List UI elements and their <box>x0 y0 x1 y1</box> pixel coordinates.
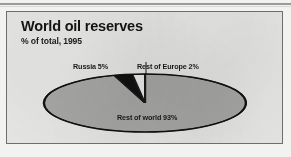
pie-chart-svg <box>7 12 283 144</box>
pie-chart: Russia 5% Rest of Europe 2% Rest of worl… <box>7 12 283 144</box>
scanned-page: World oil reserves % of total, 1995 <box>0 0 291 157</box>
chart-figure-panel: World oil reserves % of total, 1995 <box>6 11 283 144</box>
pie-label-russia: Russia 5% <box>73 62 108 71</box>
pie-label-rest-of-world: Rest of world 93% <box>117 113 177 122</box>
pie-label-rest-of-europe: Rest of Europe 2% <box>137 62 199 71</box>
page-top-rule-secondary <box>0 6 291 7</box>
page-top-rule <box>0 3 291 5</box>
